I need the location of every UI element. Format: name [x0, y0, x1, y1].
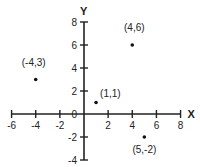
data-point: [34, 78, 38, 82]
y-tick-label: 4: [71, 63, 77, 74]
plot-area: -6-4-22468-4-202468 (-4,3)(4,6)(1,1)(5,-…: [0, 0, 200, 167]
data-point: [130, 43, 134, 47]
y-tick-label: -2: [68, 132, 77, 143]
data-point: [94, 101, 98, 105]
data-point-label: (1,1): [100, 88, 121, 99]
x-tick-label: 4: [129, 120, 135, 131]
x-axis-label: X: [188, 108, 196, 120]
origin-label: 0: [71, 109, 77, 120]
coordinate-plane-chart: -6-4-22468-4-202468 (-4,3)(4,6)(1,1)(5,-…: [0, 0, 200, 167]
ticks: -6-4-22468-4-202468: [7, 17, 184, 166]
x-tick-label: -2: [55, 120, 64, 131]
data-point-label: (5,-2): [132, 144, 156, 155]
y-tick-label: 8: [71, 17, 77, 28]
axes: [12, 22, 181, 160]
x-tick-label: 8: [178, 120, 184, 131]
x-tick-label: 6: [154, 120, 160, 131]
x-tick-label: 2: [105, 120, 111, 131]
y-tick-label: 6: [71, 40, 77, 51]
y-axis-label: Y: [80, 5, 88, 17]
data-point: [143, 135, 147, 139]
x-tick-label: -6: [7, 120, 16, 131]
data-point-label: (4,6): [124, 22, 145, 33]
data-point-label: (-4,3): [22, 57, 46, 68]
y-tick-label: 2: [71, 86, 77, 97]
y-tick-label: -4: [68, 155, 77, 166]
data-points: (-4,3)(4,6)(1,1)(5,-2): [22, 22, 157, 155]
x-tick-label: -4: [31, 120, 40, 131]
